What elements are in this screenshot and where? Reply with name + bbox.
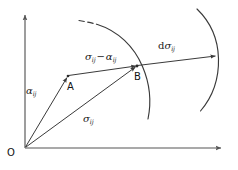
- alpha-subscript: ij: [33, 90, 37, 97]
- sigma-minus-alpha-label: σij − αij: [85, 52, 116, 63]
- minus-operator: −: [95, 51, 105, 62]
- diagram-svg: [0, 0, 238, 170]
- alpha-subscript-2: ij: [113, 56, 117, 63]
- sigma-subscript-3: ij: [171, 45, 175, 52]
- point-a-dot: [67, 75, 70, 78]
- d-sigma-ij-label: dσij: [158, 41, 175, 52]
- sigma-symbol-2: σ: [85, 51, 92, 62]
- sigma-vector: [26, 67, 136, 147]
- alpha-symbol-2: α: [106, 51, 113, 62]
- inner-yield-surface-arc: [98, 25, 150, 120]
- alpha-ij-label: αij: [26, 86, 36, 97]
- alpha-symbol: α: [26, 85, 33, 96]
- point-b-dot: [136, 65, 139, 68]
- outer-bounding-surface-arc: [197, 9, 219, 111]
- point-a-label: A: [67, 82, 74, 92]
- figure-canvas: O A B αij σij σij − αij dσij: [0, 0, 238, 170]
- d-sigma-vector: [138, 56, 216, 66]
- sigma-ij-label: σij: [83, 114, 93, 125]
- inner-arc-dashed-tip: [79, 21, 98, 25]
- origin-label: O: [7, 148, 15, 158]
- sigma-symbol: σ: [83, 113, 90, 124]
- point-b-label: B: [134, 72, 141, 82]
- sigma-subscript: ij: [90, 118, 94, 125]
